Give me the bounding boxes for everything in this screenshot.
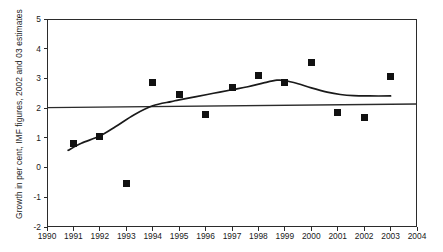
reference-level-line: [47, 104, 417, 108]
data-point-marker: [255, 72, 262, 79]
data-point-marker: [70, 140, 77, 147]
data-point-marker: [387, 73, 394, 80]
data-point-marker: [308, 59, 315, 66]
data-point-marker: [176, 91, 183, 98]
growth-chart: Growth in per cent, IMF figures, 2002 an…: [0, 0, 443, 252]
data-point-marker: [229, 84, 236, 91]
data-point-marker: [202, 111, 209, 118]
plot-svg: [0, 0, 443, 252]
data-point-marker: [123, 180, 130, 187]
data-point-marker: [361, 114, 368, 121]
data-point-marker: [149, 79, 156, 86]
data-point-marker: [281, 79, 288, 86]
data-point-marker: [334, 109, 341, 116]
data-point-marker: [96, 133, 103, 140]
